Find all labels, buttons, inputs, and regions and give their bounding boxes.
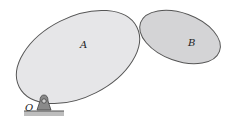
label-a: A [79,39,87,50]
label-b: B [187,37,195,48]
pin-icon [42,99,46,103]
mechanism-diagram: A B O [0,0,233,125]
body-b [132,0,227,74]
label-o: O [25,102,33,113]
